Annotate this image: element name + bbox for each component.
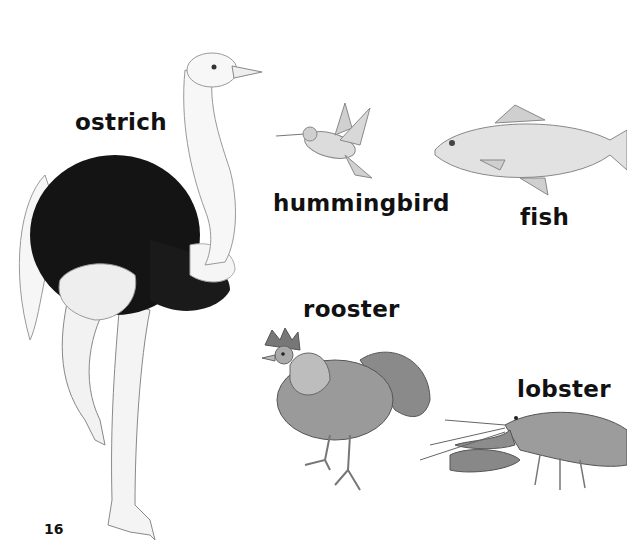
label-hummingbird: hummingbird xyxy=(273,190,450,216)
label-fish: fish xyxy=(520,204,569,230)
label-ostrich: ostrich xyxy=(75,109,167,135)
lobster-illustration xyxy=(0,0,627,559)
label-rooster: rooster xyxy=(303,296,400,322)
label-lobster: lobster xyxy=(517,376,611,402)
page-number: 16 xyxy=(44,521,63,537)
